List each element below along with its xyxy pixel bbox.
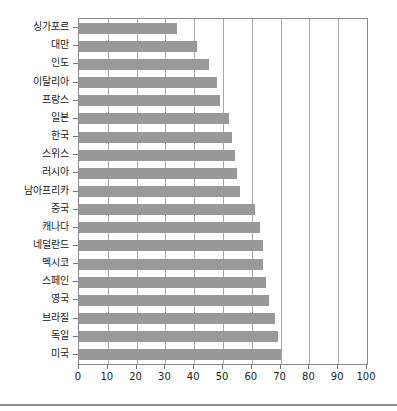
bar[interactable] xyxy=(79,95,220,106)
x-axis-tick-label: 10 xyxy=(100,371,113,382)
bar[interactable] xyxy=(79,222,260,233)
bar-row xyxy=(79,41,367,52)
footer-divider xyxy=(0,404,397,406)
bar-row xyxy=(79,95,367,106)
x-axis-tick-label: 90 xyxy=(331,371,344,382)
y-axis-tick-label: 대만 xyxy=(51,39,69,50)
bar[interactable] xyxy=(79,277,266,288)
bar-row xyxy=(79,77,367,88)
x-axis-tick-label: 0 xyxy=(75,371,81,382)
bar[interactable] xyxy=(79,59,209,70)
y-axis-tick-label: 싱가포르 xyxy=(33,21,69,32)
y-axis-tick-label: 중국 xyxy=(51,203,69,214)
x-axis-tick-mark xyxy=(164,364,165,369)
y-axis-tick-label: 미국 xyxy=(51,348,69,359)
bar[interactable] xyxy=(79,41,197,52)
bar-row xyxy=(79,259,367,270)
y-axis-tick-label: 멕시코 xyxy=(42,257,69,268)
bar-row xyxy=(79,23,367,34)
bar-row xyxy=(79,204,367,215)
x-axis-tick-mark xyxy=(308,364,309,369)
plot-area xyxy=(78,18,368,365)
bar-row xyxy=(79,132,367,143)
x-axis-tick-label: 50 xyxy=(216,371,229,382)
bar[interactable] xyxy=(79,113,229,124)
bar[interactable] xyxy=(79,23,177,34)
bar-row xyxy=(79,168,367,179)
y-axis-tick-label: 독일 xyxy=(51,330,69,341)
y-axis-tick-label: 남아프리카 xyxy=(24,185,69,196)
bar[interactable] xyxy=(79,186,240,197)
bar-row xyxy=(79,113,367,124)
y-axis-labels: 싱가포르대만인도이탈리아프랑스일본한국스위스러시아남아프리카중국캐나다네덜란드멕… xyxy=(0,18,78,363)
x-axis-tick-mark xyxy=(193,364,194,369)
bars-layer xyxy=(79,19,367,364)
bar-row xyxy=(79,349,367,360)
x-axis-tick-label: 20 xyxy=(129,371,142,382)
bar-chart-container: 싱가포르대만인도이탈리아프랑스일본한국스위스러시아남아프리카중국캐나다네덜란드멕… xyxy=(0,0,397,411)
bar-row xyxy=(79,313,367,324)
bar[interactable] xyxy=(79,132,232,143)
chart-figure: 싱가포르대만인도이탈리아프랑스일본한국스위스러시아남아프리카중국캐나다네덜란드멕… xyxy=(0,0,397,392)
x-axis-tick-label: 100 xyxy=(356,371,375,382)
x-axis-tick-mark xyxy=(280,364,281,369)
x-axis-tick-mark xyxy=(251,364,252,369)
x-axis-tick-mark xyxy=(222,364,223,369)
bar[interactable] xyxy=(79,168,237,179)
y-axis-tick-label: 영국 xyxy=(51,293,69,304)
bar[interactable] xyxy=(79,331,278,342)
bar-row xyxy=(79,186,367,197)
x-axis-tick-label: 60 xyxy=(244,371,257,382)
y-axis-tick-label: 스페인 xyxy=(42,275,69,286)
x-axis-tick-mark xyxy=(337,364,338,369)
bar[interactable] xyxy=(79,295,269,306)
x-axis-tick-mark xyxy=(136,364,137,369)
bar[interactable] xyxy=(79,77,217,88)
bar[interactable] xyxy=(79,349,281,360)
x-axis-tick-label: 80 xyxy=(302,371,315,382)
bar-row xyxy=(79,240,367,251)
bar-row xyxy=(79,59,367,70)
y-axis-tick-label: 스위스 xyxy=(42,148,69,159)
x-axis-tick-label: 30 xyxy=(158,371,171,382)
y-axis-tick-label: 러시아 xyxy=(42,166,69,177)
bar-row xyxy=(79,331,367,342)
y-axis-tick-label: 일본 xyxy=(51,112,69,123)
x-axis: 0102030405060708090100 xyxy=(78,364,368,390)
y-axis-tick-label: 프랑스 xyxy=(42,94,69,105)
bar[interactable] xyxy=(79,204,255,215)
y-axis-tick-label: 네덜란드 xyxy=(33,239,69,250)
x-axis-tick-mark xyxy=(78,364,79,369)
y-axis-tick-label: 인도 xyxy=(51,57,69,68)
y-axis-tick-label: 캐나다 xyxy=(42,221,69,232)
x-axis-tick-label: 70 xyxy=(273,371,286,382)
bar[interactable] xyxy=(79,150,235,161)
bar-row xyxy=(79,222,367,233)
x-axis-tick-mark xyxy=(107,364,108,369)
y-axis-tick-label: 이탈리아 xyxy=(33,76,69,87)
bar[interactable] xyxy=(79,313,275,324)
bar-row xyxy=(79,277,367,288)
bar[interactable] xyxy=(79,240,263,251)
x-axis-tick-mark xyxy=(366,364,367,369)
bar[interactable] xyxy=(79,259,263,270)
y-axis-tick-label: 브라질 xyxy=(42,312,69,323)
bar-row xyxy=(79,295,367,306)
x-axis-tick-label: 40 xyxy=(187,371,200,382)
y-axis-tick-label: 한국 xyxy=(51,130,69,141)
bar-row xyxy=(79,150,367,161)
